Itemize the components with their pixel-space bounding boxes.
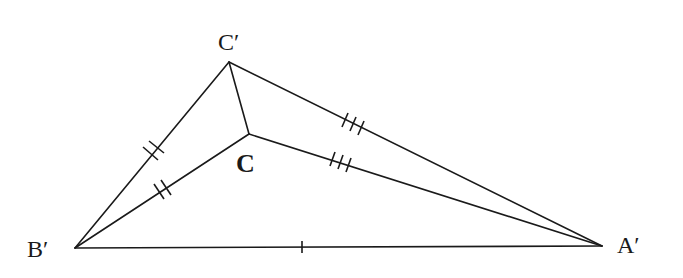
triple-tick-mark-c-prime-a-prime (342, 113, 364, 135)
label-a-prime: A′ (617, 232, 640, 258)
segment-c-a-prime (249, 134, 602, 246)
triple-tick-mark-c-a-prime (330, 152, 351, 172)
double-tick-mark-b-prime-c (154, 180, 171, 199)
segment-c-prime-c (229, 62, 249, 134)
label-c: C (236, 149, 255, 178)
label-c-prime: C′ (218, 29, 239, 55)
segment-b-prime-a-prime (75, 246, 602, 248)
triangle-diagram: C′ C B′ A′ (0, 0, 683, 278)
label-b-prime: B′ (27, 236, 48, 262)
segment-c-prime-a-prime (229, 62, 602, 246)
